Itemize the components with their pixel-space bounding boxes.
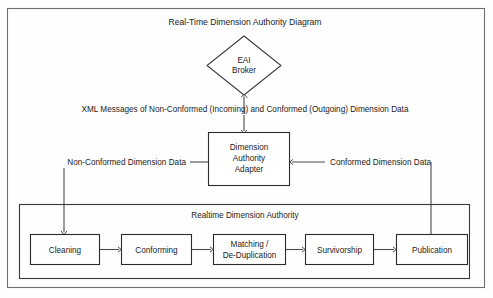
- step-label-publication: Publication: [412, 246, 453, 255]
- adapter-label-line2: Authority: [233, 154, 266, 163]
- step-label-matching-line2: De-Duplication: [223, 251, 277, 260]
- adapter-label-line1: Dimension: [230, 143, 269, 152]
- page-title: Real-Time Dimension Authority Diagram: [169, 17, 322, 27]
- eai-broker-label-line2: Broker: [232, 66, 256, 75]
- input-label: Non-Conformed Dimension Data: [67, 158, 186, 167]
- step-label-cleaning: Cleaning: [49, 246, 82, 255]
- adapter-label-line3: Adapter: [235, 165, 264, 174]
- step-label-matching-line1: Matching /: [231, 240, 269, 249]
- diagram-canvas: Real-Time Dimension Authority Diagram EA…: [0, 0, 493, 298]
- step-label-conforming: Conforming: [135, 246, 178, 255]
- step-node-matching: [214, 235, 286, 265]
- output-label: Conformed Dimension Data: [330, 158, 431, 167]
- group-title: Realtime Dimension Authority: [191, 211, 299, 220]
- bus-label: XML Messages of Non-Conformed (Incoming)…: [82, 105, 409, 114]
- step-label-survivorship: Survivorship: [317, 246, 362, 255]
- eai-broker-label-line1: EAI: [237, 56, 250, 65]
